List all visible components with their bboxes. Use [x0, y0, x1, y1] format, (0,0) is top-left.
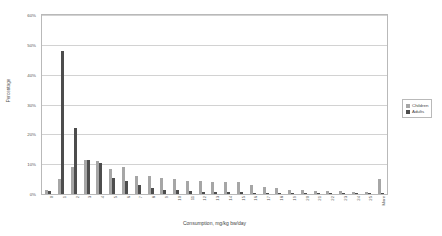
- bar-adults: [291, 193, 294, 194]
- bar-adults: [304, 193, 307, 194]
- bar-adults: [74, 128, 77, 194]
- bar-adults: [99, 163, 102, 194]
- bar-group: [374, 15, 387, 194]
- bar-group: [170, 15, 183, 194]
- bar-adults: [342, 193, 345, 194]
- bar-adults: [125, 181, 128, 194]
- y-axis-title: Percentage: [6, 65, 11, 117]
- x-tick-label: 23: [344, 196, 349, 201]
- bar-adults: [227, 192, 230, 194]
- bar-group: [208, 15, 221, 194]
- x-tick-label: 16: [254, 196, 259, 201]
- bar-group: [272, 15, 285, 194]
- bar-adults: [381, 193, 384, 194]
- bar-group: [183, 15, 196, 194]
- legend-label: Adults: [412, 109, 424, 114]
- bar-adults: [266, 193, 269, 194]
- y-tick-label: 20%: [27, 132, 36, 137]
- x-tick-label: 7: [139, 196, 144, 198]
- bar-adults: [329, 193, 332, 194]
- y-tick-label: 10%: [27, 162, 36, 167]
- x-tick-label: 2: [76, 196, 81, 198]
- x-tick-label: 1: [63, 196, 68, 198]
- y-axis: 0%10%20%30%40%50%60%: [0, 0, 40, 236]
- y-tick-label: 0%: [30, 192, 36, 197]
- bar-group: [361, 15, 374, 194]
- bar-group: [93, 15, 106, 194]
- legend-item: Adults: [406, 109, 428, 114]
- bars-layer: [42, 15, 387, 194]
- x-tick-label: 0: [50, 196, 55, 198]
- bar-group: [68, 15, 81, 194]
- chart-legend: ChildrenAdults: [402, 99, 432, 118]
- x-tick-label: 12: [203, 196, 208, 201]
- bar-group: [55, 15, 68, 194]
- y-tick-label: 50%: [27, 42, 36, 47]
- bar-group: [157, 15, 170, 194]
- legend-swatch-adults: [406, 110, 410, 114]
- x-tick-label: 4: [101, 196, 106, 198]
- x-tick-label: 15: [242, 196, 247, 201]
- bar-adults: [48, 191, 51, 194]
- x-tick-label: 10: [178, 196, 183, 201]
- x-tick-label: 24: [357, 196, 362, 201]
- legend-label: Children: [412, 103, 428, 108]
- bar-adults: [214, 192, 217, 194]
- x-axis: 0123456789101112131415161718192021222324…: [42, 196, 387, 218]
- bar-chart: 0%10%20%30%40%50%60% Percentage 01234567…: [0, 0, 442, 236]
- x-tick-label: 17: [267, 196, 272, 201]
- x-tick-label: 11: [191, 196, 196, 200]
- bar-adults: [87, 160, 90, 194]
- x-tick-label: 20: [306, 196, 311, 201]
- bar-adults: [138, 185, 141, 194]
- bar-group: [106, 15, 119, 194]
- bar-group: [234, 15, 247, 194]
- x-tick-label: 3: [88, 196, 93, 198]
- y-tick-label: 40%: [27, 72, 36, 77]
- bar-adults: [317, 193, 320, 194]
- bar-group: [336, 15, 349, 194]
- bar-adults: [278, 193, 281, 194]
- bar-group: [80, 15, 93, 194]
- bar-adults: [368, 193, 371, 194]
- bar-adults: [240, 192, 243, 194]
- bar-adults: [253, 193, 256, 194]
- bar-group: [259, 15, 272, 194]
- bar-group: [310, 15, 323, 194]
- x-tick-label: 14: [229, 196, 234, 201]
- x-tick-label: 9: [165, 196, 170, 198]
- bar-adults: [61, 51, 64, 194]
- bar-group: [221, 15, 234, 194]
- bar-adults: [202, 192, 205, 194]
- bar-group: [42, 15, 55, 194]
- x-tick-label: 13: [216, 196, 221, 201]
- bar-group: [298, 15, 311, 194]
- bar-adults: [355, 193, 358, 194]
- bar-group: [285, 15, 298, 194]
- y-tick-label: 60%: [27, 13, 36, 18]
- bar-adults: [112, 178, 115, 194]
- x-tick-label: 5: [114, 196, 119, 198]
- bar-adults: [189, 191, 192, 194]
- bar-group: [246, 15, 259, 194]
- x-tick-label: 19: [293, 196, 298, 201]
- y-tick-label: 30%: [27, 102, 36, 107]
- x-tick-label: 6: [127, 196, 132, 198]
- bar-adults: [163, 190, 166, 194]
- bar-adults: [176, 190, 179, 194]
- legend-swatch-children: [406, 104, 410, 108]
- x-tick-label: More: [382, 196, 387, 206]
- bar-group: [131, 15, 144, 194]
- x-tick-label: 21: [318, 196, 323, 201]
- x-tick-label: 25: [369, 196, 374, 201]
- bar-group: [323, 15, 336, 194]
- bar-adults: [151, 188, 154, 194]
- legend-item: Children: [406, 103, 428, 108]
- bar-group: [119, 15, 132, 194]
- bar-group: [195, 15, 208, 194]
- x-tick-label: 8: [152, 196, 157, 198]
- bar-group: [349, 15, 362, 194]
- x-tick-label: 18: [280, 196, 285, 201]
- bar-group: [144, 15, 157, 194]
- x-axis-title: Consumption, mg/kg bw/day: [41, 220, 388, 226]
